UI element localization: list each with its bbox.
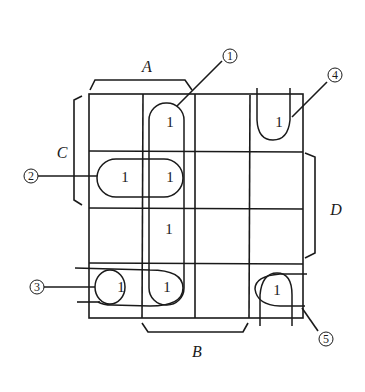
label-c: C [57,144,68,161]
cell-r2-c1: 1 [165,221,173,237]
bracket-d [305,153,315,258]
cell-r1-c1: 1 [166,169,174,185]
bracket-a [90,80,192,90]
karnaugh-map-diagram: A C D B 1 1 1 1 1 1 1 1 1 2 [0,0,365,392]
bracket-c [74,96,82,205]
group-2-number: 2 [28,169,34,183]
group-4-number: 4 [332,68,338,82]
label-a: A [141,58,152,75]
grid-col-line [249,95,250,318]
group-1: 1 [149,49,237,305]
bracket-b [142,323,248,332]
grid-row-line [89,263,303,264]
group-4: 4 [257,68,342,140]
group-1-loop [149,103,184,305]
cell-r0-c3: 1 [275,114,283,130]
label-d: D [329,201,342,218]
cell-r1-c0: 1 [121,169,129,185]
group-3-number: 3 [34,280,40,294]
group-5-horizontal-loop [255,274,307,306]
group-5-number: 5 [323,332,329,346]
group-5-leader [302,308,318,331]
cell-r0-c1: 1 [166,114,174,130]
label-b: B [192,343,202,360]
cell-r3-c3: 1 [273,282,281,298]
group-3: 3 [30,268,183,306]
grid-row-line [89,208,303,209]
group-2: 2 [24,159,183,197]
grid-col-line [142,94,143,318]
group-1-leader [177,61,222,106]
group-4-leader [292,82,327,117]
group-1-number: 1 [227,49,233,63]
grid-row-line [89,151,303,152]
group-5: 5 [255,273,333,346]
group-4-loop [257,88,290,140]
cell-r3-c1: 1 [163,279,171,295]
